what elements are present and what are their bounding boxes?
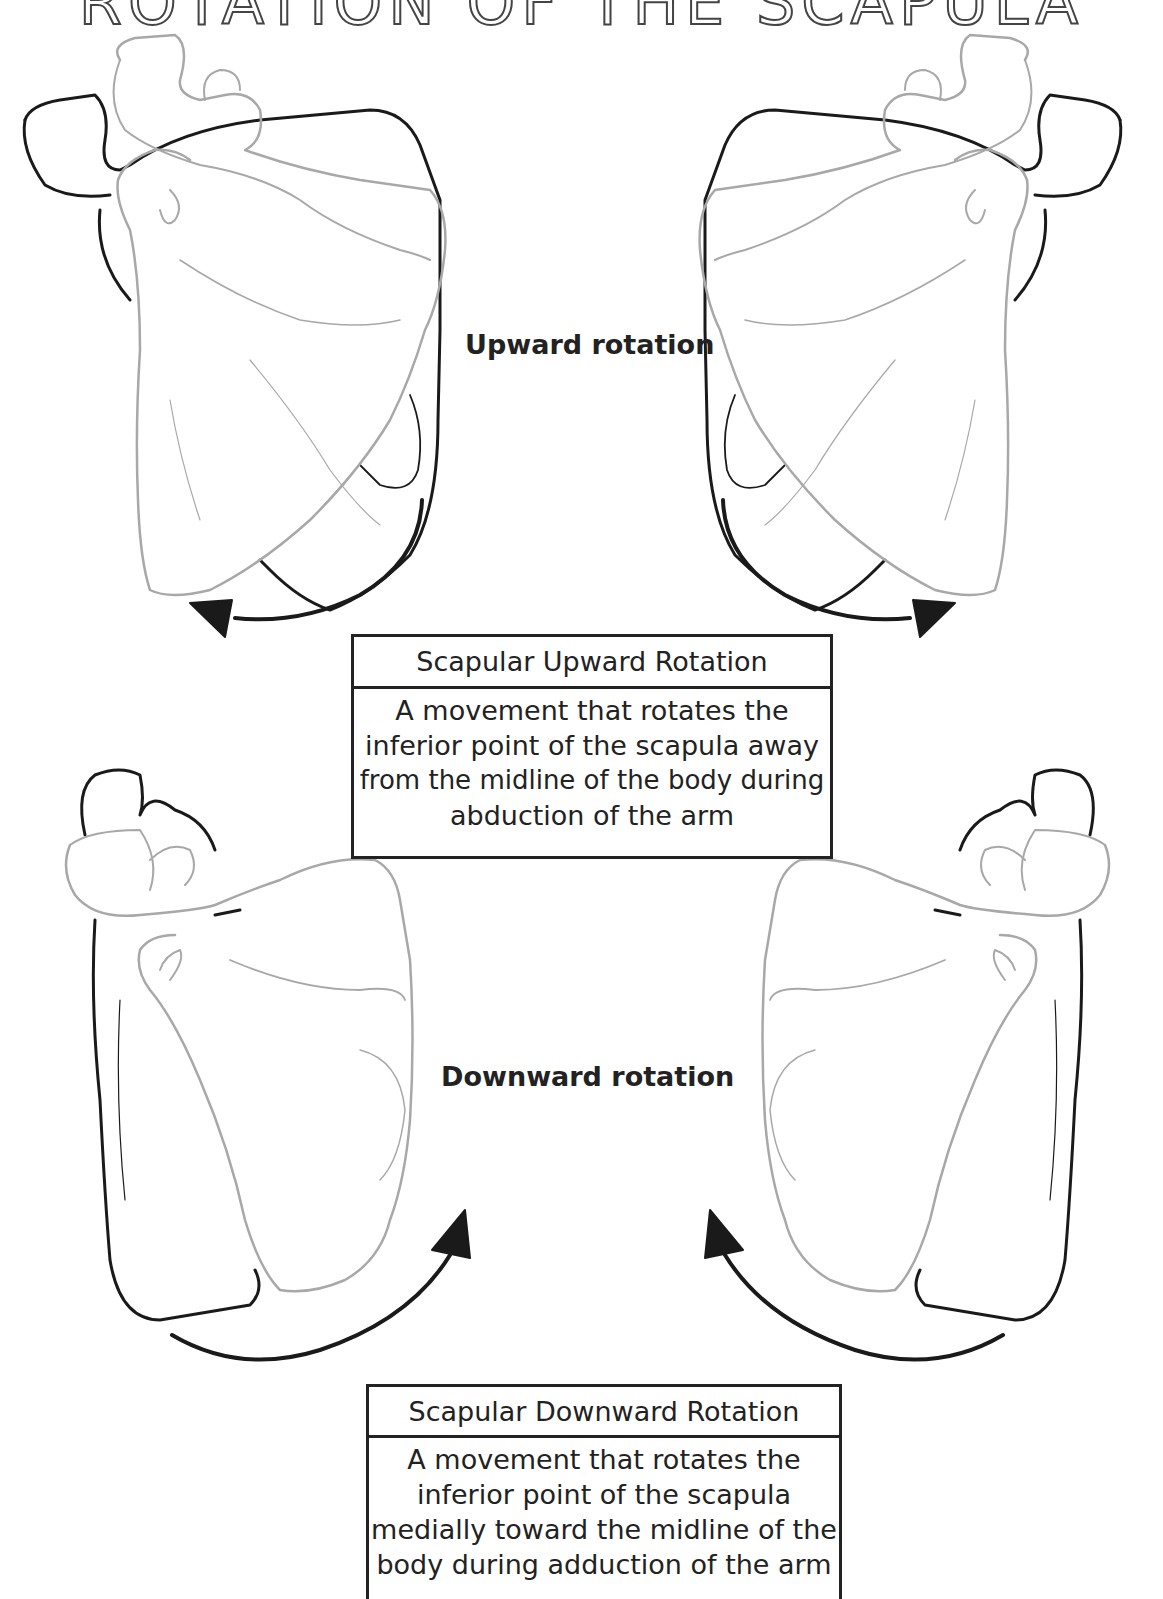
definition-line: body during adduction of the arm — [369, 1547, 839, 1582]
definition-line: inferior point of the scapula — [369, 1477, 839, 1512]
definition-line: A movement that rotates the — [369, 1442, 839, 1477]
upward-rotation-label: Upward rotation — [465, 329, 714, 360]
definition-heading: Scapular Upward Rotation — [354, 637, 830, 689]
scapula-top-left — [24, 35, 445, 637]
definition-text: A movement that rotates the inferior poi… — [369, 1438, 839, 1582]
definition-line: from the midline of the body during — [354, 763, 830, 798]
definition-line: medially toward the midline of the — [369, 1512, 839, 1547]
downward-rotation-definition-box: Scapular Downward Rotation A movement th… — [366, 1384, 842, 1599]
definition-line: inferior point of the scapula away — [354, 728, 830, 763]
downward-rotation-label: Downward rotation — [441, 1061, 734, 1092]
definition-line: A movement that rotates the — [354, 693, 830, 728]
definition-text: A movement that rotates the inferior poi… — [354, 689, 830, 833]
upward-rotation-definition-box: Scapular Upward Rotation A movement that… — [351, 634, 833, 859]
definition-heading: Scapular Downward Rotation — [369, 1387, 839, 1438]
scapula-top-right — [700, 35, 1121, 637]
definition-line: abduction of the arm — [354, 798, 830, 833]
